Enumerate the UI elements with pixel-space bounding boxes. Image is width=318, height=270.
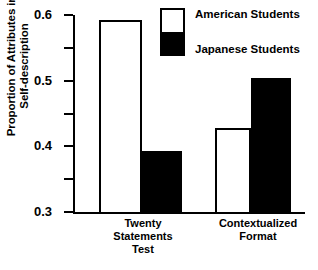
y-axis-title: Proportion of Attributes in Self-descrip… bbox=[0, 0, 36, 164]
x-category-label: Contextualized Format bbox=[183, 217, 318, 243]
legend-swatch-american bbox=[162, 10, 183, 32]
legend-labels: American Students Japanese Students bbox=[195, 8, 300, 56]
y-axis-title-line-1: Proportion of Attributes in bbox=[5, 0, 18, 136]
bar bbox=[215, 128, 251, 212]
bar bbox=[142, 151, 182, 212]
y-tick-mark: 0.4 bbox=[64, 80, 73, 82]
y-tick-mark: 0.3 bbox=[64, 113, 73, 115]
y-tick-mark: 0.5 bbox=[64, 47, 73, 49]
y-tick-mark: 0.2 bbox=[64, 145, 73, 147]
bar-chart: Proportion of Attributes in Self-descrip… bbox=[0, 0, 318, 270]
y-tick-label: 0.4 bbox=[34, 138, 52, 153]
y-tick-label: 0.5 bbox=[34, 72, 52, 87]
x-axis-line bbox=[73, 212, 305, 214]
y-tick-mark: 0.6 bbox=[64, 14, 73, 16]
y-axis-title-line-2: Self-description bbox=[18, 23, 31, 108]
legend-label-american: American Students bbox=[195, 9, 300, 21]
legend-swatch-japanese bbox=[162, 32, 183, 54]
y-tick-label: 0.6 bbox=[34, 7, 52, 22]
bar bbox=[99, 20, 142, 212]
y-tick-mark: 0 bbox=[64, 211, 73, 213]
legend-swatch bbox=[160, 8, 185, 56]
y-tick-label: 0.3 bbox=[34, 204, 52, 219]
legend: American Students Japanese Students bbox=[160, 8, 300, 56]
y-axis-line bbox=[73, 15, 75, 212]
legend-label-japanese: Japanese Students bbox=[195, 44, 300, 56]
y-tick-mark: 0.1 bbox=[64, 178, 73, 180]
bar bbox=[251, 78, 291, 212]
